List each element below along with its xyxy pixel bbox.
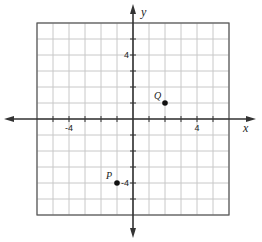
y-tick-label-4: 4 <box>124 50 129 60</box>
x-axis-left-arrow-icon <box>4 116 14 122</box>
point-label-q: Q <box>154 90 162 101</box>
x-tick-label-4: 4 <box>194 123 199 133</box>
y-tick-label-neg4: -4 <box>121 178 129 188</box>
point-label-p: P <box>105 170 112 181</box>
coordinate-plane: -444-4xyQP <box>0 0 262 242</box>
y-axis-up-arrow-icon <box>130 4 136 14</box>
y-axis-label: y <box>140 5 147 19</box>
x-tick-label-neg4: -4 <box>65 123 73 133</box>
point-q <box>162 100 168 106</box>
y-axis-down-arrow-icon <box>130 228 136 238</box>
x-axis-label: x <box>242 121 249 135</box>
point-p <box>114 180 120 186</box>
